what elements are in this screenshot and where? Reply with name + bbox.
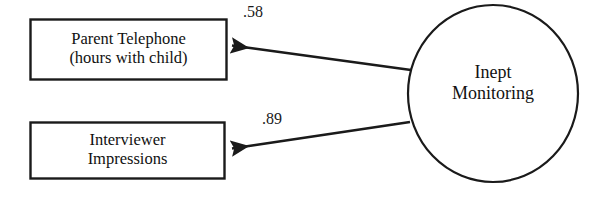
path-arrow-loading-1	[232, 46, 411, 71]
path-arrow-loading-2	[232, 122, 410, 149]
indicator-box-parent-telephone	[31, 20, 227, 80]
sem-path-diagram: Parent Telephone (hours with child) Inte…	[0, 0, 607, 200]
path-coefficient-loading-2: .89	[262, 110, 282, 128]
diagram-canvas	[0, 0, 607, 200]
latent-ellipse-inept-monitoring	[408, 5, 578, 182]
path-coefficient-loading-1: .58	[243, 3, 263, 21]
indicator-box-interviewer-impressions	[31, 123, 225, 179]
